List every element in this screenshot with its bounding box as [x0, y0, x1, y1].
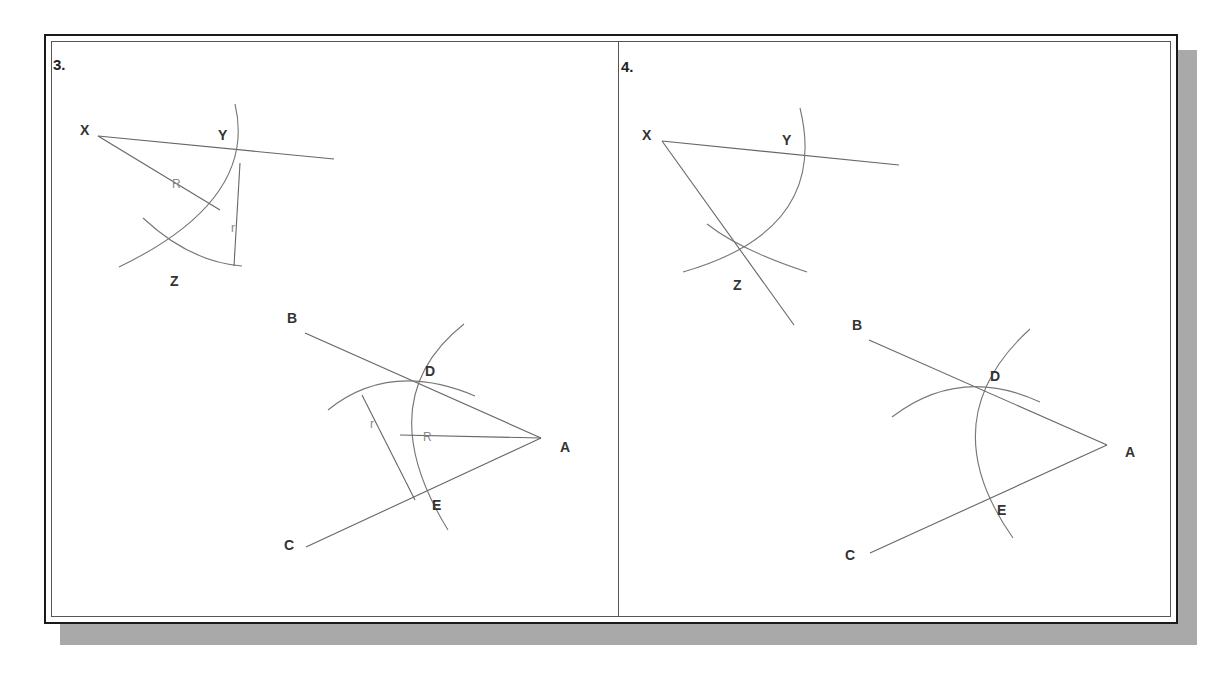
chord-r-lower [362, 395, 415, 500]
label-y: Y [218, 127, 228, 143]
panel-4: 4. X Y Z B C A D E [621, 58, 1135, 563]
label-z: Z [170, 273, 179, 289]
radius-R-lower [400, 435, 541, 438]
label-y: Y [782, 132, 792, 148]
line-xz [662, 141, 794, 325]
arc-d [892, 387, 1040, 417]
label-d: D [990, 368, 1000, 384]
label-a: A [1125, 444, 1135, 460]
dim-R-lower: R [423, 430, 432, 444]
label-c: C [845, 547, 855, 563]
dim-R: R [172, 177, 181, 191]
label-x: X [642, 127, 652, 143]
line-ab [869, 340, 1107, 445]
label-d: D [425, 363, 435, 379]
label-b: B [852, 317, 862, 333]
arc-z [707, 224, 807, 272]
label-e: E [432, 497, 441, 513]
label-b: B [287, 310, 297, 326]
geometry-drawing: 3. X Y Z R r B C A D E R r 4. X Y Z [0, 0, 1228, 674]
label-c: C [284, 537, 294, 553]
arc-z [143, 218, 242, 266]
label-x: X [80, 122, 90, 138]
line-ab [305, 333, 541, 438]
label-z: Z [733, 277, 742, 293]
panel-number: 3. [53, 56, 66, 73]
radius-R-line [98, 136, 220, 210]
line-xy [98, 136, 334, 159]
line-ac [870, 445, 1107, 553]
panel-number: 4. [621, 58, 634, 75]
label-e: E [997, 502, 1006, 518]
arc-d [328, 381, 475, 410]
line-xy [662, 141, 899, 165]
line-ac [306, 438, 541, 547]
dim-r-lower: r [370, 417, 374, 431]
dim-r: r [231, 221, 235, 235]
panel-3: 3. X Y Z R r B C A D E R r [53, 56, 570, 553]
label-a: A [560, 439, 570, 455]
chord-r-line [234, 163, 240, 266]
